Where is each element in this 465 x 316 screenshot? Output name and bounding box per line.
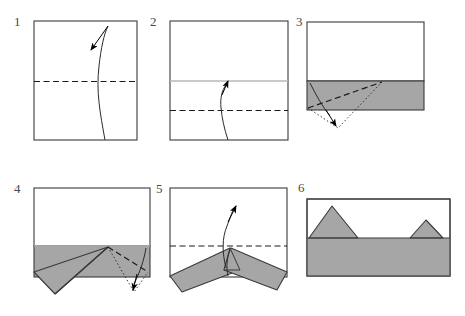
panel-3: 3 [296, 14, 424, 128]
panel-5-number: 5 [156, 181, 163, 196]
panel-6-number: 6 [298, 180, 305, 195]
panel-1: 1 [14, 14, 137, 140]
panel-1-number: 1 [14, 14, 21, 29]
origami-instruction-diagram: 1 2 3 4 [0, 0, 465, 316]
panel-3-upper-sheet [307, 22, 424, 81]
panel-6-gray-base [307, 238, 450, 276]
panel-4-upper-sheet [34, 188, 150, 246]
panel-3-gray-band [307, 81, 424, 110]
panel-2: 2 [150, 14, 288, 140]
panel-1-sheet [34, 21, 137, 140]
panel-3-number: 3 [296, 14, 303, 29]
panel-4-number: 4 [14, 181, 21, 196]
panel-4: 4 [14, 181, 150, 294]
panel-2-number: 2 [150, 14, 157, 29]
panel-5: 5 [156, 181, 287, 292]
diagram-canvas: 1 2 3 4 [0, 0, 465, 316]
panel-6: 6 [298, 180, 450, 276]
